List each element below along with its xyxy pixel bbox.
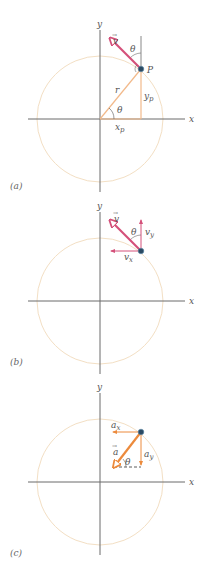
x-axis-label: x (189, 296, 194, 306)
ay-label: ay (144, 449, 154, 461)
vector-arrow-glyph: → (112, 442, 117, 449)
panel-label-b: (b) (10, 357, 23, 367)
x-axis-label: x (189, 114, 194, 124)
theta-label: θ (131, 227, 137, 237)
y-axis-label: y (96, 382, 103, 392)
theta-label: θ (125, 457, 131, 467)
radius-label: r (115, 85, 120, 95)
vy-label: vy (145, 227, 155, 239)
particle (138, 248, 144, 254)
y-axis-label: y (96, 201, 103, 211)
particle-p (138, 66, 144, 72)
velocity-vector (114, 224, 141, 251)
particle (138, 429, 144, 435)
theta-top-label: θ (130, 44, 136, 54)
panel-label-a: (a) (10, 181, 23, 191)
theta-arc-center (109, 108, 114, 119)
theta-center-label: θ (117, 105, 123, 115)
vector-arrow-glyph: → (112, 31, 117, 38)
vector-arrow-glyph: → (113, 209, 118, 216)
panel-b: x y θ v → vy vx (b) (10, 201, 194, 374)
vx-label: vx (124, 252, 133, 264)
point-label: P (146, 65, 154, 75)
y-axis-label: y (96, 19, 103, 29)
x-component-label: xp (115, 122, 125, 134)
panel-c: x y θ ax a → ay (c) (10, 382, 194, 558)
x-axis-label: x (189, 477, 194, 487)
panel-label-c: (c) (10, 548, 23, 558)
circular-motion-figure: x y r θ yp xp θ v → P (a) x y θ v → (0, 0, 208, 568)
panel-a: x y r θ yp xp θ v → P (a) (10, 19, 194, 192)
y-component-label: yp (143, 91, 154, 103)
